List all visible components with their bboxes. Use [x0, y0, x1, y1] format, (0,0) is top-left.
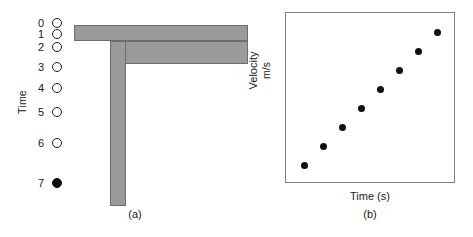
velocity-axis-label: Velocity m/s	[247, 23, 272, 119]
time-marker-row: 3	[28, 60, 76, 74]
time-tick-label: 4	[28, 81, 44, 95]
table-lower-slab	[118, 41, 248, 64]
panel-a: Time 01234567 (a)	[0, 0, 260, 237]
scatter-data-point	[434, 29, 441, 36]
time-marker-row: 5	[28, 105, 76, 119]
scatter-plot-area	[286, 13, 454, 182]
velocity-axis-label-line1: Velocity	[247, 52, 259, 90]
scatter-data-point	[301, 162, 308, 169]
position-marker-open-icon	[52, 107, 62, 117]
position-marker-open-icon	[52, 83, 62, 93]
time-tick-label: 5	[28, 105, 44, 119]
time-axis-label: Time	[16, 82, 28, 122]
velocity-axis-label-line2: m/s	[259, 23, 272, 119]
time-marker-row: 7	[28, 176, 76, 190]
panel-b-caption: (b)	[285, 208, 455, 220]
time-tick-label: 6	[28, 136, 44, 150]
time-tick-label: 1	[28, 27, 44, 41]
time-tick-label: 3	[28, 60, 44, 74]
time-marker-row: 2	[28, 40, 76, 54]
scatter-data-point	[377, 86, 384, 93]
panel-b: Velocity m/s Time (s) (b)	[248, 0, 473, 237]
position-marker-open-icon	[52, 42, 62, 52]
scatter-data-point	[358, 105, 365, 112]
table-leg-slab	[110, 41, 126, 206]
scatter-data-point	[396, 67, 403, 74]
time-tick-label: 7	[28, 176, 44, 190]
time-axis-label-b: Time (s)	[285, 190, 455, 202]
position-marker-open-icon	[52, 29, 62, 39]
position-marker-open-icon	[52, 138, 62, 148]
panel-a-caption: (a)	[90, 208, 180, 220]
scatter-data-point	[415, 48, 422, 55]
time-marker-row: 1	[28, 27, 76, 41]
scatter-data-point	[320, 143, 327, 150]
position-marker-filled-icon	[52, 178, 62, 188]
physics-figure: Time 01234567 (a) Velocity m/s Time (s) …	[0, 0, 473, 237]
time-tick-label: 2	[28, 40, 44, 54]
scatter-plot-frame	[285, 12, 455, 183]
scatter-data-point	[339, 124, 346, 131]
position-marker-open-icon	[52, 62, 62, 72]
time-marker-row: 4	[28, 81, 76, 95]
position-marker-open-icon	[52, 18, 62, 28]
table-top-slab	[74, 25, 248, 41]
time-marker-row: 6	[28, 136, 76, 150]
